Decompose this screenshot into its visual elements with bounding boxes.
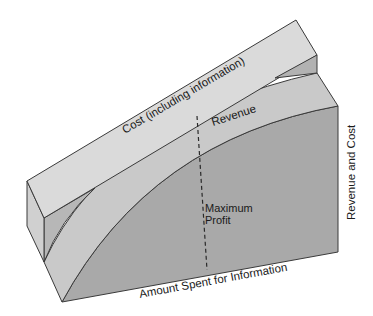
revenue-cost-diagram: Cost (including information) Revenue Max… (0, 0, 373, 316)
y-axis-label: Revenue and Cost (345, 124, 357, 220)
max-profit-label-2: Profit (205, 214, 231, 226)
max-profit-label-1: Maximum (205, 202, 253, 214)
